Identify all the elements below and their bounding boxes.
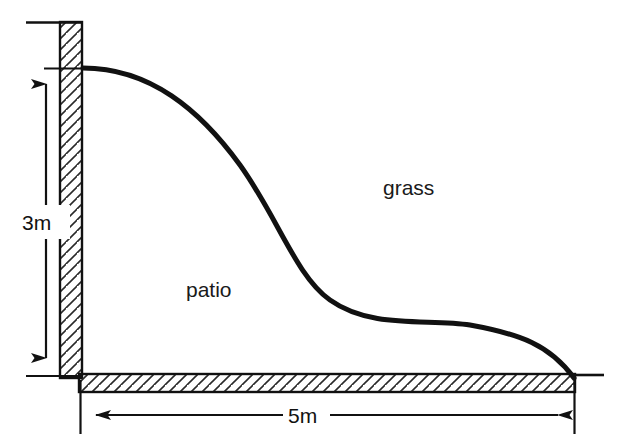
dimension-label-5m: 5m (288, 404, 317, 427)
region-label-patio: patio (186, 278, 232, 301)
patio-grass-boundary-curve (83, 68, 574, 378)
diagram-canvas: 3m 5m patio grass (0, 0, 633, 441)
garden-diagram: 3m 5m patio grass (0, 0, 633, 441)
bottom-wall (79, 374, 604, 392)
bottom-wall-body (79, 374, 575, 392)
left-wall-body (60, 22, 82, 378)
region-label-grass: grass (383, 176, 434, 199)
dimension-label-3m: 3m (22, 211, 51, 234)
left-wall (26, 22, 82, 378)
